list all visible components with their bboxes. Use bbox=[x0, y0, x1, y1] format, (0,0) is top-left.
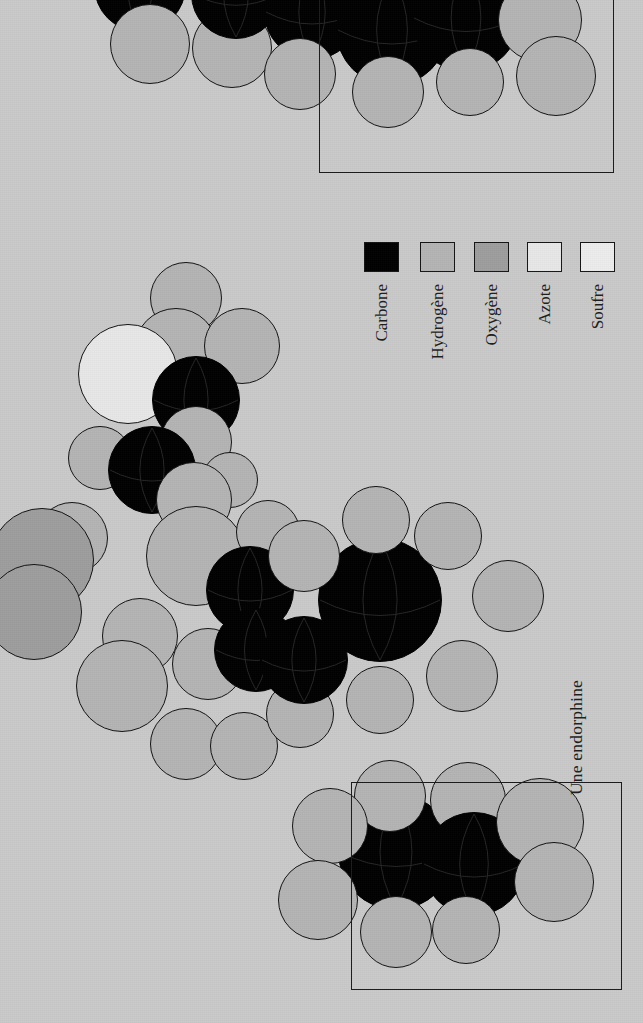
atom-h bbox=[76, 640, 168, 732]
legend-label-c: Carbone bbox=[372, 284, 392, 342]
legend-label-h: Hydrogène bbox=[428, 284, 448, 360]
figure-canvas: Une endorphine CarboneHydrogèneOxygèneAz… bbox=[0, 0, 643, 1023]
legend-swatch-s bbox=[580, 242, 615, 272]
legend: CarboneHydrogèneOxygèneAzoteSoufre bbox=[357, 240, 619, 370]
top-detail-frame bbox=[319, 0, 614, 173]
legend-swatch-n bbox=[527, 242, 562, 272]
atom-h bbox=[426, 640, 498, 712]
atom-h bbox=[110, 4, 190, 84]
atom-h bbox=[346, 666, 414, 734]
atom-h bbox=[278, 860, 358, 940]
legend-item-s: Soufre bbox=[578, 240, 618, 370]
legend-swatch-c bbox=[364, 242, 399, 272]
bottom-detail-frame bbox=[351, 782, 622, 990]
figure-caption: Une endorphine bbox=[566, 585, 587, 795]
legend-item-n: Azote bbox=[525, 240, 565, 370]
legend-item-c: Carbone bbox=[362, 240, 402, 370]
atom-h bbox=[472, 560, 544, 632]
legend-swatch-o bbox=[474, 242, 509, 272]
legend-label-o: Oxygène bbox=[482, 284, 502, 345]
legend-swatch-h bbox=[420, 242, 455, 272]
legend-label-s: Soufre bbox=[588, 284, 608, 329]
atom-h bbox=[414, 502, 482, 570]
atom-h bbox=[268, 520, 340, 592]
legend-item-h: Hydrogène bbox=[418, 240, 458, 370]
legend-label-n: Azote bbox=[535, 284, 555, 325]
legend-item-o: Oxygène bbox=[472, 240, 512, 370]
atom-h bbox=[342, 486, 410, 554]
